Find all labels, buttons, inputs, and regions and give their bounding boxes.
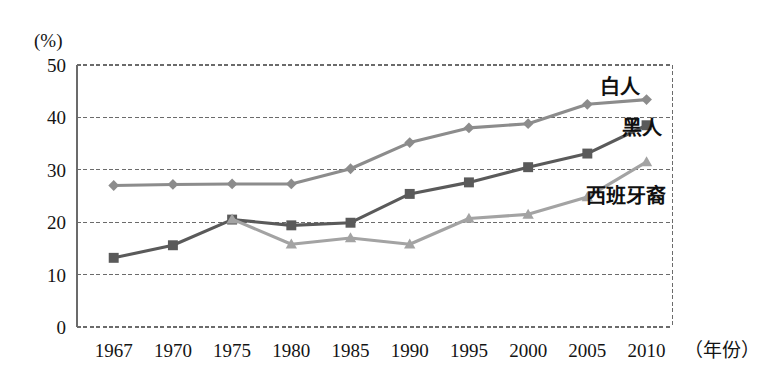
line-chart: 01020304050(%)19671970197519801985199019…: [0, 0, 767, 376]
series-label-1: 白人: [600, 75, 641, 98]
data-point-diamond: [345, 163, 356, 174]
series-label-3: 西班牙裔: [586, 184, 666, 207]
data-point-square: [405, 189, 415, 199]
series-line: [232, 162, 646, 244]
x-tick-label: 1975: [213, 340, 251, 361]
x-tick-label: 2005: [568, 340, 606, 361]
data-point-diamond: [641, 94, 652, 105]
data-point-square: [582, 149, 592, 159]
data-point-diamond: [168, 179, 179, 190]
y-tick-label: 0: [57, 317, 67, 338]
data-point-square: [346, 218, 356, 228]
data-point-diamond: [108, 180, 119, 191]
y-axis-ticks: 01020304050: [47, 55, 66, 338]
chart-container: 01020304050(%)19671970197519801985199019…: [0, 0, 767, 376]
data-point-square: [168, 240, 178, 250]
x-axis-label: （年份）: [684, 340, 760, 361]
series-line: [114, 125, 647, 258]
x-tick-label: 1995: [450, 340, 488, 361]
x-tick-label: 2010: [628, 340, 666, 361]
data-point-diamond: [286, 179, 297, 190]
data-point-triangle: [641, 156, 652, 166]
y-tick-label: 50: [47, 55, 66, 76]
data-point-diamond: [464, 122, 475, 133]
data-point-diamond: [523, 118, 534, 129]
data-point-square: [286, 220, 296, 230]
series-label-2: 黑人: [622, 117, 663, 139]
y-tick-label: 30: [47, 160, 66, 181]
data-point-diamond: [582, 99, 593, 110]
data-point-diamond: [227, 179, 238, 190]
x-tick-label: 1980: [272, 340, 310, 361]
data-point-diamond: [404, 137, 415, 148]
x-tick-label: 2000: [509, 340, 547, 361]
y-tick-label: 40: [47, 107, 66, 128]
x-tick-label: 1967: [95, 340, 133, 361]
x-tick-label: 1990: [391, 340, 429, 361]
x-tick-label: 1970: [154, 340, 192, 361]
data-point-square: [109, 253, 119, 263]
data-point-square: [523, 162, 533, 172]
x-axis-ticks: 1967197019751980198519901995200020052010: [95, 340, 666, 361]
x-tick-label: 1985: [332, 340, 370, 361]
series-1: [108, 94, 652, 191]
y-axis-unit-label: (%): [34, 30, 62, 52]
y-tick-label: 20: [47, 212, 66, 233]
series-line: [114, 100, 647, 186]
y-tick-label: 10: [47, 265, 66, 286]
data-point-square: [464, 177, 474, 187]
